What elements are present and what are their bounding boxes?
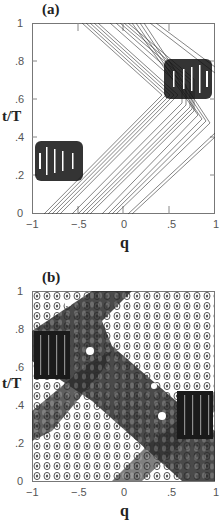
panel-a-label: (a) bbox=[42, 1, 60, 18]
y-tick: 1 bbox=[17, 285, 23, 297]
panel-a: (a) t/T 1 .8 .6 .4 .2 0 bbox=[0, 0, 223, 262]
y-tick: .6 bbox=[15, 361, 24, 373]
panel-b-y-axis-label: t/T bbox=[2, 375, 21, 392]
panel-b: (b) t/T 1 .8 .6 .4 .2 0 bbox=[0, 263, 223, 525]
y-tick: .2 bbox=[15, 437, 24, 449]
x-tick: −.5 bbox=[71, 218, 87, 230]
x-tick: −1 bbox=[26, 218, 39, 230]
x-tick: 1 bbox=[213, 486, 219, 498]
x-tick: .5 bbox=[167, 486, 176, 498]
x-tick: 0 bbox=[121, 486, 127, 498]
x-tick: −1 bbox=[26, 486, 39, 498]
y-tick: .8 bbox=[15, 323, 24, 335]
panel-a-plot bbox=[32, 23, 215, 215]
y-tick: 0 bbox=[17, 475, 23, 487]
x-tick: 0 bbox=[121, 218, 127, 230]
panel-a-x-axis-label: q bbox=[120, 234, 129, 252]
x-tick: 1 bbox=[213, 218, 219, 230]
y-tick: 1 bbox=[17, 17, 23, 29]
y-tick: .4 bbox=[15, 131, 24, 143]
y-tick: 0 bbox=[17, 207, 23, 219]
panel-b-x-axis-label: q bbox=[120, 502, 129, 520]
panel-b-label: (b) bbox=[42, 269, 60, 286]
y-tick: .4 bbox=[15, 399, 24, 411]
y-tick: .2 bbox=[15, 169, 24, 181]
x-tick: −.5 bbox=[71, 486, 87, 498]
y-tick: .8 bbox=[15, 55, 24, 67]
y-tick: .6 bbox=[15, 93, 24, 105]
x-tick: .5 bbox=[167, 218, 176, 230]
panel-a-y-axis-label: t/T bbox=[2, 108, 21, 125]
panel-b-plot bbox=[32, 291, 215, 483]
